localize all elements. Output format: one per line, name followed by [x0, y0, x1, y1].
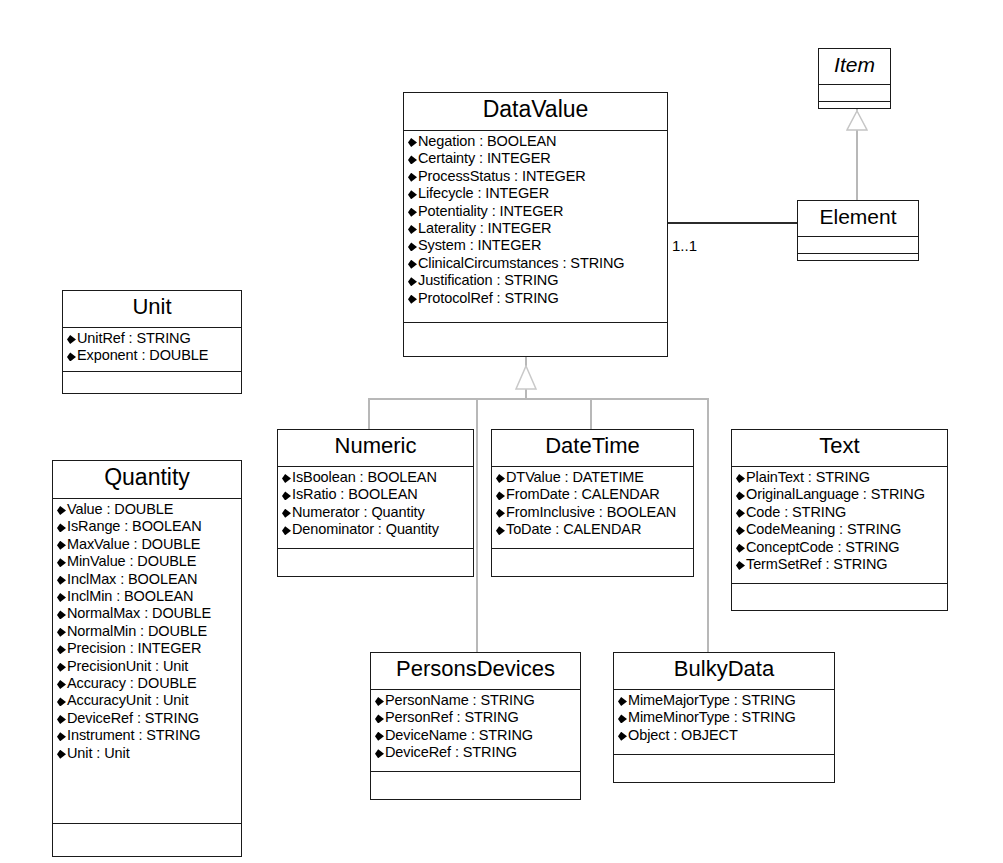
attribute-diamond-icon	[496, 526, 505, 535]
class-attribute-row: MaxValue : DOUBLE	[57, 536, 238, 553]
class-attribute-row: Accuracy : DOUBLE	[57, 675, 238, 692]
class-attribute-label: AccuracyUnit : Unit	[67, 692, 188, 708]
class-title-unit: Unit	[63, 291, 241, 328]
class-attribute-row: Precision : INTEGER	[57, 640, 238, 657]
class-attribute-label: Denominator : Quantity	[292, 521, 439, 537]
class-box-bulkydata[interactable]: BulkyData MimeMajorType : STRINGMimeMino…	[613, 652, 835, 783]
class-attribute-row: Certainty : INTEGER	[408, 150, 664, 167]
class-attribute-label: Object : OBJECT	[628, 727, 738, 743]
attribute-diamond-icon	[57, 541, 66, 550]
attribute-diamond-icon	[57, 697, 66, 706]
class-attribute-row: Justification : STRING	[408, 272, 664, 289]
class-attribute-label: Certainty : INTEGER	[418, 150, 551, 166]
uml-diagram-canvas: 1..1 Item Element DataValue Negation : B…	[0, 0, 1003, 863]
class-attribute-label: MimeMinorType : STRING	[628, 709, 796, 725]
attribute-diamond-icon	[282, 474, 291, 483]
class-operations-unit	[63, 372, 241, 391]
class-attribute-label: ToDate : CALENDAR	[506, 521, 641, 537]
class-box-datetime[interactable]: DateTime DTValue : DATETIMEFromDate : CA…	[491, 429, 694, 577]
class-box-element[interactable]: Element	[797, 200, 919, 261]
class-attributes-unit: UnitRef : STRINGExponent : DOUBLE	[63, 328, 241, 372]
attribute-diamond-icon	[57, 628, 66, 637]
attribute-diamond-icon	[408, 242, 417, 251]
class-attribute-label: Justification : STRING	[418, 272, 558, 288]
class-box-item[interactable]: Item	[818, 48, 891, 109]
class-attribute-row: FromDate : CALENDAR	[496, 486, 690, 503]
class-attribute-row: InclMax : BOOLEAN	[57, 571, 238, 588]
class-attribute-label: NormalMin : DOUBLE	[67, 623, 207, 639]
attribute-diamond-icon	[375, 749, 384, 758]
class-attribute-row: IsRatio : BOOLEAN	[282, 486, 470, 503]
class-title-numeric: Numeric	[278, 430, 473, 467]
class-title-personsdevices: PersonsDevices	[371, 653, 580, 690]
class-attribute-label: Exponent : DOUBLE	[77, 347, 208, 363]
class-attribute-label: Unit : Unit	[67, 745, 130, 761]
class-attribute-label: Lifecycle : INTEGER	[418, 185, 549, 201]
class-operations-item	[819, 102, 890, 121]
class-attribute-row: CodeMeaning : STRING	[736, 521, 944, 538]
class-attribute-row: Exponent : DOUBLE	[67, 347, 238, 364]
attribute-diamond-icon	[408, 190, 417, 199]
attribute-diamond-icon	[57, 715, 66, 724]
attribute-diamond-icon	[496, 491, 505, 500]
class-box-unit[interactable]: Unit UnitRef : STRINGExponent : DOUBLE	[62, 290, 242, 394]
attribute-diamond-icon	[408, 260, 417, 269]
class-attribute-row: Negation : BOOLEAN	[408, 133, 664, 150]
class-attribute-label: IsRatio : BOOLEAN	[292, 486, 418, 502]
class-attribute-label: FromDate : CALENDAR	[506, 486, 660, 502]
class-attribute-row: TermSetRef : STRING	[736, 556, 944, 573]
class-title-bulkydata: BulkyData	[614, 653, 834, 690]
attribute-diamond-icon	[57, 593, 66, 602]
class-attribute-label: System : INTEGER	[418, 237, 541, 253]
class-attribute-label: TermSetRef : STRING	[746, 556, 888, 572]
class-box-datavalue[interactable]: DataValue Negation : BOOLEANCertainty : …	[403, 92, 668, 357]
attribute-diamond-icon	[618, 714, 627, 723]
attribute-diamond-icon	[57, 645, 66, 654]
class-attribute-label: ProcessStatus : INTEGER	[418, 168, 586, 184]
class-title-element: Element	[798, 201, 918, 237]
class-title-datetime: DateTime	[492, 430, 693, 467]
class-box-numeric[interactable]: Numeric IsBoolean : BOOLEANIsRatio : BOO…	[277, 429, 474, 577]
attribute-diamond-icon	[57, 750, 66, 759]
attribute-diamond-icon	[67, 352, 76, 361]
attribute-diamond-icon	[57, 610, 66, 619]
class-attribute-label: PersonRef : STRING	[385, 709, 519, 725]
class-attribute-row: Laterality : INTEGER	[408, 220, 664, 237]
class-attribute-row: InclMin : BOOLEAN	[57, 588, 238, 605]
class-attribute-label: ProtocolRef : STRING	[418, 290, 559, 306]
attribute-diamond-icon	[282, 526, 291, 535]
class-attribute-row: DeviceRef : STRING	[57, 710, 238, 727]
class-attribute-row: Value : DOUBLE	[57, 501, 238, 518]
attribute-diamond-icon	[57, 558, 66, 567]
class-attribute-label: Instrument : STRING	[67, 727, 200, 743]
attribute-diamond-icon	[408, 295, 417, 304]
class-title-datavalue: DataValue	[404, 93, 667, 131]
class-attribute-row: ConceptCode : STRING	[736, 539, 944, 556]
class-box-quantity[interactable]: Quantity Value : DOUBLEIsRange : BOOLEAN…	[52, 460, 242, 857]
class-attribute-label: ConceptCode : STRING	[746, 539, 900, 555]
attribute-diamond-icon	[57, 663, 66, 672]
class-attribute-label: OriginalLanguage : STRING	[746, 486, 925, 502]
class-attribute-label: UnitRef : STRING	[77, 330, 191, 346]
class-attribute-label: IsRange : BOOLEAN	[67, 518, 202, 534]
class-box-personsdevices[interactable]: PersonsDevices PersonName : STRINGPerson…	[370, 652, 581, 800]
class-attribute-row: Numerator : Quantity	[282, 504, 470, 521]
class-attribute-label: DeviceRef : STRING	[67, 710, 199, 726]
class-attribute-label: Laterality : INTEGER	[418, 220, 551, 236]
class-attribute-label: InclMax : BOOLEAN	[67, 571, 197, 587]
class-attribute-label: Numerator : Quantity	[292, 504, 425, 520]
class-attribute-row: MimeMinorType : STRING	[618, 709, 831, 726]
attribute-diamond-icon	[408, 173, 417, 182]
attribute-diamond-icon	[282, 509, 291, 518]
class-attribute-label: PersonName : STRING	[385, 692, 535, 708]
attribute-diamond-icon	[57, 523, 66, 532]
class-attribute-label: DTValue : DATETIME	[506, 469, 644, 485]
class-attribute-row: IsBoolean : BOOLEAN	[282, 469, 470, 486]
class-attribute-label: Code : STRING	[746, 504, 846, 520]
class-attributes-item	[819, 85, 890, 102]
class-attribute-label: IsBoolean : BOOLEAN	[292, 469, 437, 485]
multiplicity-label: 1..1	[672, 238, 697, 253]
class-box-text[interactable]: Text PlainText : STRINGOriginalLanguage …	[731, 429, 948, 611]
class-attribute-row: PersonName : STRING	[375, 692, 577, 709]
class-title-text: Text	[732, 430, 947, 467]
